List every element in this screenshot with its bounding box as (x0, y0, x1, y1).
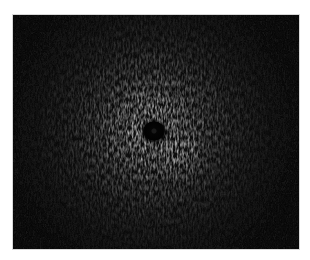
catheter-lumen (143, 121, 165, 141)
ultrasound-scan-image (12, 14, 300, 250)
